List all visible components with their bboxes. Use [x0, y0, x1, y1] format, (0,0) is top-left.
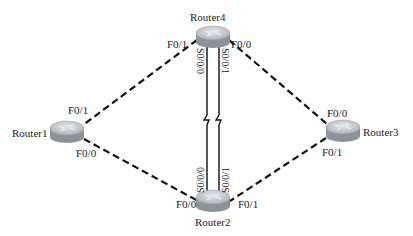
link-r4-r1: [83, 40, 197, 125]
router3-icon[interactable]: [326, 120, 360, 142]
router3-label: Router3: [363, 126, 398, 138]
link-r3-r2: [230, 138, 326, 201]
router1-icon[interactable]: [50, 121, 84, 143]
router4-f01-label: F0/1: [167, 38, 187, 50]
router3-f00-label: F0/0: [327, 107, 347, 119]
router2-f01-label: F0/1: [238, 198, 258, 210]
link-r4-r3: [229, 40, 327, 124]
network-diagram: [0, 0, 413, 236]
router2-s001-label: S0/0/1: [220, 167, 231, 193]
router4-icon[interactable]: [196, 26, 230, 48]
router1-f01-label: F0/1: [68, 104, 88, 116]
router2-f00-label: F0/0: [176, 198, 196, 210]
router2-icon[interactable]: [196, 190, 230, 212]
router2-label: Router2: [195, 216, 230, 228]
router4-s000-label: S0/0/0: [195, 48, 206, 74]
router4-label: Router4: [190, 11, 225, 23]
router4-f00-label: F0/0: [231, 38, 251, 50]
router2-s000-label: S0/0/0: [195, 167, 206, 193]
router1-label: Router1: [12, 127, 47, 139]
link-r1-r2: [84, 139, 198, 201]
router3-f01-label: F0/1: [322, 146, 342, 158]
router1-f00-label: F0/0: [76, 147, 96, 159]
router4-s001-label: S0/0/1: [220, 48, 231, 74]
